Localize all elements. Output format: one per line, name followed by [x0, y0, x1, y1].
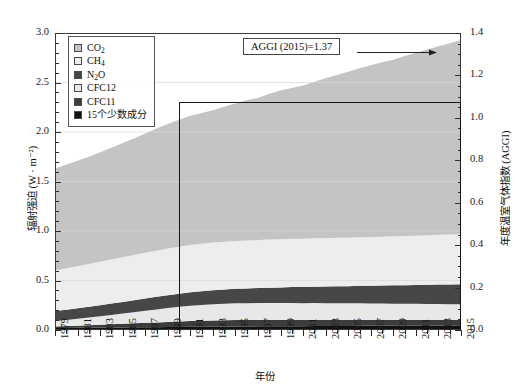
y-tick-minor [55, 53, 59, 54]
y2-tick [455, 203, 461, 204]
y2-tick-minor [458, 224, 462, 225]
legend-item-label: CFC12 [87, 83, 116, 93]
legend-item[interactable]: CO2 [74, 41, 147, 55]
y2-tick [455, 288, 461, 289]
y-tick [55, 83, 61, 84]
x-axis-tick-label: 2013 [442, 318, 453, 339]
y-tick-minor [55, 251, 59, 252]
y-tick-minor [55, 152, 59, 153]
x-axis-tick-label: 2011 [420, 318, 431, 339]
y-tick [55, 33, 61, 34]
x-axis-tick-label: 1983 [104, 318, 115, 339]
y-tick-minor [55, 201, 59, 202]
x-tick [348, 330, 349, 336]
y2-tick-minor [458, 182, 462, 183]
legend-swatch-icon [74, 44, 82, 52]
y2-tick [455, 75, 461, 76]
x-axis-tick-label: 1995 [239, 318, 250, 339]
y2-tick-minor [458, 277, 462, 278]
y-tick-minor [55, 112, 59, 113]
x-tick [258, 330, 259, 336]
y2-tick [455, 33, 461, 34]
y2-tick-minor [458, 309, 462, 310]
x-tick [461, 330, 462, 336]
x-tick [190, 330, 191, 336]
aggi-reference-rectangle [179, 102, 461, 330]
y2-tick-minor [458, 150, 462, 151]
legend-item[interactable]: N2O [74, 68, 147, 82]
annotation-arrow-icon [357, 48, 439, 57]
x-tick [55, 330, 56, 336]
x-tick [213, 330, 214, 336]
legend-item[interactable]: 15个少数成分 [74, 109, 147, 123]
y2-tick-minor [458, 298, 462, 299]
y-axis-right-title: 年度温室气体指数 (AGGI) [497, 94, 512, 284]
y2-tick-minor [458, 319, 462, 320]
legend-item[interactable]: CFC11 [74, 95, 147, 109]
legend-item-label: CFC11 [87, 97, 116, 107]
x-tick [100, 330, 101, 336]
y-tick-minor [55, 102, 59, 103]
legend-swatch-icon [74, 111, 82, 119]
y-tick-minor [55, 320, 59, 321]
y-tick-minor [55, 172, 59, 173]
x-tick [416, 330, 417, 336]
legend-item-label: 15个少数成分 [87, 110, 147, 120]
legend-item[interactable]: CH4 [74, 55, 147, 69]
x-tick [235, 330, 236, 336]
x-axis-tick-label: 2003 [330, 318, 341, 339]
legend-item[interactable]: CFC12 [74, 82, 147, 96]
y2-tick-minor [458, 107, 462, 108]
legend-swatch-icon [74, 98, 82, 106]
y2-tick-minor [458, 65, 462, 66]
legend-swatch-icon [74, 84, 82, 92]
x-axis-tick-label: 2001 [307, 318, 318, 339]
x-tick [78, 330, 79, 336]
y-tick-minor [55, 122, 59, 123]
y2-tick-minor [458, 128, 462, 129]
radiative-forcing-chart: 0.00.51.01.52.02.53.0 0.00.20.40.60.81.0… [0, 0, 530, 387]
legend-item-label: CH4 [87, 56, 105, 66]
y-tick-minor [55, 73, 59, 74]
y-axis-left-tick-label: 2.5 [15, 76, 49, 87]
y-axis-right-tick-label: 0.6 [470, 196, 483, 207]
y-tick-minor [55, 241, 59, 242]
y-axis-left-tick-label: 3.0 [15, 26, 49, 37]
legend-item-label: CO2 [87, 43, 105, 53]
y-tick [55, 132, 61, 133]
x-tick [145, 330, 146, 336]
x-axis-tick-label: 1991 [194, 318, 205, 339]
y2-tick-minor [458, 86, 462, 87]
y-tick [55, 231, 61, 232]
y2-tick-minor [458, 266, 462, 267]
x-axis-tick-label: 1979 [59, 318, 70, 339]
y-tick [55, 281, 61, 282]
y-tick-minor [55, 290, 59, 291]
y-axis-left-tick-label: 0.0 [15, 323, 49, 334]
x-axis-tick-label: 1997 [262, 318, 273, 339]
x-axis-tick-label: 2007 [375, 318, 386, 339]
y-tick-minor [55, 300, 59, 301]
y-axis-right-tick-label: 0.2 [470, 281, 483, 292]
y-tick-minor [55, 271, 59, 272]
x-tick [371, 330, 372, 336]
y2-tick-minor [458, 171, 462, 172]
x-tick [281, 330, 282, 336]
y2-tick [455, 160, 461, 161]
aggi-annotation: AGGI (2015)=1.37 [243, 38, 340, 55]
y2-tick [455, 245, 461, 246]
x-axis-title: 年份 [0, 368, 530, 383]
x-axis-tick-label: 1989 [172, 318, 183, 339]
y-tick-minor [55, 63, 59, 64]
x-tick [303, 330, 304, 336]
y-axis-left-title: 辐射强迫 (W · m⁻²) [24, 109, 39, 269]
y2-tick-minor [458, 54, 462, 55]
y-tick-minor [55, 211, 59, 212]
y-tick-minor [55, 221, 59, 222]
y2-tick-minor [458, 256, 462, 257]
y2-tick-minor [458, 235, 462, 236]
x-tick [438, 330, 439, 336]
y2-tick-minor [458, 139, 462, 140]
x-axis-tick-label: 1985 [127, 318, 138, 339]
y-tick-minor [55, 162, 59, 163]
